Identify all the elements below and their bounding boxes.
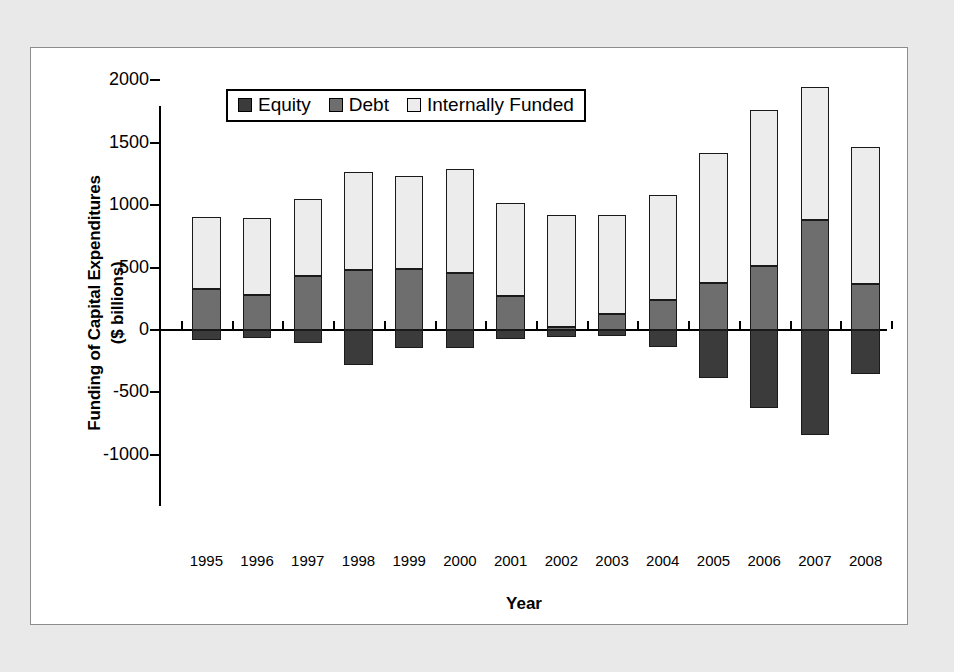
bar-segment-debt [649, 300, 677, 330]
x-axis-tick [688, 321, 690, 329]
bar-segment-debt [801, 220, 829, 330]
chart-legend: EquityDebtInternally Funded [226, 89, 586, 122]
bar-segment-internally-funded [446, 169, 474, 273]
bar-segment-debt [243, 295, 271, 330]
x-axis-tick [536, 321, 538, 329]
x-axis-tick-label: 2000 [435, 552, 486, 569]
bar-segment-internally-funded [750, 110, 778, 266]
bar-segment-internally-funded [496, 203, 524, 296]
x-axis-tick [384, 321, 386, 329]
bar-segment-internally-funded [851, 147, 879, 284]
x-axis-tick-label: 1999 [384, 552, 435, 569]
bar-segment-equity [192, 330, 220, 340]
x-axis-tick-label: 2002 [536, 552, 587, 569]
y-axis-tick [150, 454, 160, 456]
y-axis-tick-label: 1500 [29, 132, 149, 153]
y-axis-tick-label: 500 [29, 257, 149, 278]
legend-item: Debt [329, 94, 389, 116]
x-axis-tick [435, 321, 437, 329]
bar-segment-internally-funded [294, 199, 322, 276]
y-axis-tick [150, 79, 160, 81]
bar-segment-equity [344, 330, 372, 365]
y-axis-tick-label: 2000 [29, 69, 149, 90]
x-axis-tick [181, 321, 183, 329]
x-axis-tick [333, 321, 335, 329]
x-axis-tick [587, 321, 589, 329]
x-axis-tick-label: 2001 [485, 552, 536, 569]
bar-segment-debt [344, 270, 372, 330]
bar-segment-equity [649, 330, 677, 347]
bar-segment-equity [446, 330, 474, 348]
figure-page: Funding of Capital Expenditures ($ billi… [0, 0, 954, 672]
x-axis-tick-label: 1996 [232, 552, 283, 569]
y-axis-tick-label: -1000 [29, 444, 149, 465]
bar-segment-debt [851, 284, 879, 330]
bar-segment-internally-funded [649, 195, 677, 300]
legend-swatch-icon [329, 98, 343, 112]
y-axis-tick [150, 391, 160, 393]
bar-segment-debt [598, 314, 626, 330]
y-axis-tick-label: 1000 [29, 194, 149, 215]
y-axis-tick-label: -500 [29, 381, 149, 402]
x-axis-tick-label: 2004 [637, 552, 688, 569]
bar-segment-internally-funded [192, 217, 220, 289]
bar-segment-equity [547, 330, 575, 337]
bar-segment-equity [496, 330, 524, 339]
y-axis-tick-label: 0 [29, 319, 149, 340]
x-axis-tick [637, 321, 639, 329]
y-axis-title: Funding of Capital Expenditures ($ billi… [84, 133, 130, 473]
x-axis-tick [485, 321, 487, 329]
x-axis-tick [739, 321, 741, 329]
bar-segment-equity [801, 330, 829, 435]
legend-swatch-icon [238, 98, 252, 112]
bar-segment-internally-funded [395, 176, 423, 269]
legend-label: Debt [349, 94, 389, 116]
x-axis-tick-label: 2006 [739, 552, 790, 569]
bar-segment-equity [395, 330, 423, 348]
x-axis-title: Year [159, 594, 889, 614]
y-axis-title-line2: ($ billions) [107, 133, 130, 473]
bar-segment-internally-funded [598, 215, 626, 315]
plot-region: 2000150010005000-500-1000 19951996199719… [159, 58, 889, 548]
bar-segment-internally-funded [243, 218, 271, 295]
y-axis-tick [150, 142, 160, 144]
legend-label: Internally Funded [427, 94, 574, 116]
legend-item: Equity [238, 94, 311, 116]
bar-segment-debt [750, 266, 778, 330]
bar-segment-equity [851, 330, 879, 374]
x-axis-tick [790, 321, 792, 329]
bar-segment-internally-funded [699, 153, 727, 282]
bar-segment-internally-funded [801, 87, 829, 220]
bar-segment-internally-funded [547, 215, 575, 327]
bar-segment-debt [192, 289, 220, 330]
x-axis-tick-label: 2008 [840, 552, 891, 569]
x-axis-tick-label: 2007 [790, 552, 841, 569]
y-axis-title-line1: Funding of Capital Expenditures [84, 133, 107, 473]
y-axis-tick [150, 204, 160, 206]
bar-segment-debt [446, 273, 474, 330]
y-axis-line [159, 106, 161, 506]
bar-segment-internally-funded [344, 172, 372, 271]
x-axis-tick-label: 1997 [282, 552, 333, 569]
bar-segment-debt [294, 276, 322, 330]
legend-item: Internally Funded [407, 94, 574, 116]
x-axis-tick [232, 321, 234, 329]
bar-segment-equity [243, 330, 271, 337]
legend-swatch-icon [407, 98, 421, 112]
bar-segment-equity [699, 330, 727, 378]
figure-frame: Funding of Capital Expenditures ($ billi… [30, 47, 908, 625]
bar-segment-debt [395, 269, 423, 330]
bar-segment-debt [496, 296, 524, 330]
bar-segment-equity [598, 330, 626, 336]
legend-label: Equity [258, 94, 311, 116]
x-axis-tick [282, 321, 284, 329]
x-axis-tick-label: 1995 [181, 552, 232, 569]
x-axis-tick-label: 2005 [688, 552, 739, 569]
x-axis-tick-label: 1998 [333, 552, 384, 569]
y-axis-tick [150, 267, 160, 269]
bar-segment-debt [699, 283, 727, 330]
bar-segment-equity [294, 330, 322, 343]
x-axis-tick [891, 321, 893, 329]
chart-area: Funding of Capital Expenditures ($ billi… [31, 48, 909, 626]
bar-segment-equity [750, 330, 778, 408]
